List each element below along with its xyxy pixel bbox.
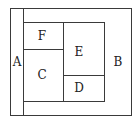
- label-f: F: [38, 29, 46, 43]
- label-c: C: [37, 68, 46, 82]
- label-e: E: [75, 45, 84, 59]
- diagram-canvas: A B F C E D: [0, 0, 139, 122]
- label-d: D: [74, 81, 84, 95]
- label-a: A: [12, 55, 22, 69]
- label-b: B: [114, 55, 123, 69]
